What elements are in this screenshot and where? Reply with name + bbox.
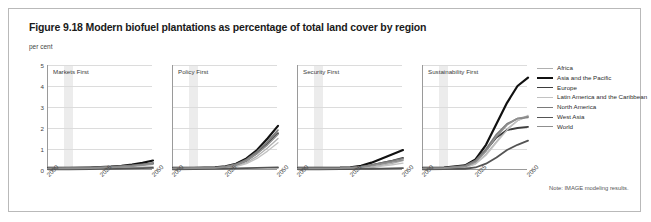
- figure-container: Figure 9.18 Modern biofuel plantations a…: [8, 8, 641, 212]
- series-line: [423, 78, 528, 168]
- y-axis-tick-label: 3: [41, 104, 44, 111]
- series-lines: [298, 65, 403, 170]
- series-lines: [423, 65, 528, 170]
- series-line: [423, 141, 528, 170]
- y-axis-tick-label: 4: [41, 83, 44, 90]
- y-axis-tick-label: 2: [41, 125, 44, 132]
- legend-item[interactable]: North America: [537, 104, 637, 110]
- plot-area: Sustainability First: [422, 65, 527, 170]
- plot-area: Markets First: [47, 65, 152, 170]
- legend-item[interactable]: Asia and the Pacific: [537, 75, 637, 81]
- legend-swatch-icon: [537, 68, 553, 69]
- y-axis-unit-label: per cent: [29, 43, 53, 50]
- legend-label: North America: [557, 104, 596, 110]
- figure-title: Figure 9.18 Modern biofuel plantations a…: [29, 21, 426, 33]
- legend-item[interactable]: World: [537, 124, 637, 130]
- legend-label: Asia and the Pacific: [557, 75, 611, 81]
- legend-swatch-icon: [537, 107, 553, 108]
- legend-item[interactable]: Europe: [537, 85, 637, 91]
- legend-label: West Asia: [557, 114, 584, 120]
- legend-swatch-icon: [537, 87, 553, 88]
- chart-panel: Security First200020252050: [297, 65, 402, 185]
- series-lines: [48, 65, 153, 170]
- y-axis-tick-label: 0: [41, 167, 44, 174]
- legend-label: World: [557, 124, 573, 130]
- figure-note: Note: IMAGE modeling results.: [549, 185, 629, 191]
- series-lines: [173, 65, 278, 170]
- legend-swatch-icon: [537, 117, 553, 118]
- plot-area: Security First: [297, 65, 402, 170]
- series-line: [173, 133, 278, 168]
- plot-area: Policy First: [172, 65, 277, 170]
- legend-swatch-icon: [537, 77, 553, 79]
- chart-panel: Markets First012345200020252050: [47, 65, 152, 185]
- legend-swatch-icon: [537, 97, 553, 98]
- chart-panel: Sustainability First200020252050: [422, 65, 527, 185]
- legend-label: Europe: [557, 85, 577, 91]
- legend-swatch-icon: [537, 126, 553, 127]
- y-axis-tick-label: 1: [41, 146, 44, 153]
- y-axis-tick-label: 5: [41, 62, 44, 69]
- legend-label: Africa: [557, 65, 573, 71]
- legend-item[interactable]: Africa: [537, 65, 637, 71]
- legend-label: Latin America and the Caribbean: [557, 94, 647, 100]
- legend-item[interactable]: West Asia: [537, 114, 637, 120]
- legend: AfricaAsia and the PacificEuropeLatin Am…: [537, 65, 637, 134]
- chart-panel: Policy First200020252050: [172, 65, 277, 185]
- legend-item[interactable]: Latin America and the Caribbean: [537, 94, 637, 100]
